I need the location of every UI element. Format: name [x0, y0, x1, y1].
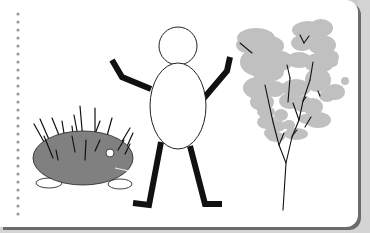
stick-figure-icon [112, 27, 230, 205]
illustration [0, 0, 370, 233]
hedgehog-icon [33, 106, 133, 189]
hedgehog-eye-icon [106, 149, 114, 157]
tree-icon [236, 19, 349, 210]
notebook-margin-dots-icon [16, 12, 19, 215]
